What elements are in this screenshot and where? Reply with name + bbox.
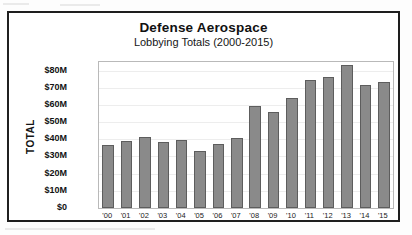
- bar: [305, 80, 316, 208]
- chart-title: Defense Aerospace: [9, 20, 398, 35]
- bar: [268, 112, 279, 208]
- bar: [139, 137, 150, 208]
- bar-column: [249, 62, 260, 208]
- bar-column: [360, 62, 371, 208]
- y-tick-label: $30M: [15, 150, 67, 160]
- bar-column: [286, 62, 297, 208]
- y-tick-label: $50M: [15, 116, 67, 126]
- chart-figure-frame: Defense Aerospace Lobbying Totals (2000-…: [7, 11, 400, 222]
- bar: [286, 98, 297, 208]
- y-tick-label: $20M: [15, 168, 67, 178]
- plot-area: [98, 61, 394, 209]
- bar-column: [194, 62, 205, 208]
- bar: [194, 151, 205, 208]
- scan-speckle: [3, 3, 29, 5]
- bar-column: [323, 62, 334, 208]
- bar-column: [176, 62, 187, 208]
- bar: [360, 85, 371, 208]
- chart-subtitle: Lobbying Totals (2000-2015): [9, 36, 398, 48]
- bar-column: [102, 62, 113, 208]
- scan-speckle: [5, 228, 155, 230]
- y-tick-label: $70M: [15, 82, 67, 92]
- y-tick-label: $10M: [15, 185, 67, 195]
- bar: [231, 138, 242, 208]
- y-tick-label: $0: [15, 202, 67, 212]
- bar-column: [268, 62, 279, 208]
- bar-column: [158, 62, 169, 208]
- bar-series: [99, 62, 393, 208]
- bar-column: [231, 62, 242, 208]
- bar: [341, 65, 352, 208]
- bar-column: [139, 62, 150, 208]
- scanned-page: Defense Aerospace Lobbying Totals (2000-…: [0, 0, 412, 235]
- x-tick-label: '15: [368, 211, 398, 220]
- y-tick-label: $60M: [15, 99, 67, 109]
- bar-column: [121, 62, 132, 208]
- bar: [249, 106, 260, 208]
- y-tick-label: $80M: [15, 65, 67, 75]
- bar: [158, 142, 169, 208]
- bar-column: [378, 62, 389, 208]
- bar: [102, 145, 113, 208]
- y-tick-label: $40M: [15, 133, 67, 143]
- scan-speckle: [60, 4, 100, 6]
- bar: [121, 141, 132, 209]
- bar: [378, 82, 389, 208]
- bar-column: [305, 62, 316, 208]
- bar: [213, 144, 224, 208]
- bar-column: [213, 62, 224, 208]
- bar-column: [341, 62, 352, 208]
- bar: [323, 77, 334, 208]
- bar: [176, 140, 187, 208]
